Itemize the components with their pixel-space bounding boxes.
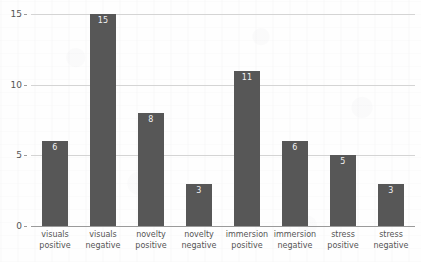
y-tick-label: 15 bbox=[11, 10, 22, 19]
x-tick-label-line: negative bbox=[271, 240, 319, 251]
bar-value-label: 6 bbox=[282, 144, 308, 152]
y-tick-mark bbox=[24, 14, 27, 15]
x-tick-label: immersionnegative bbox=[271, 229, 319, 251]
bar-value-label: 8 bbox=[138, 116, 164, 124]
x-tick-label-line: positive bbox=[127, 240, 175, 251]
x-tick-label-line: positive bbox=[319, 240, 367, 251]
bar: 8 bbox=[138, 113, 164, 226]
y-tick-label: 5 bbox=[16, 151, 22, 160]
x-tick-label-line: visuals bbox=[31, 229, 79, 240]
plot-area: 6158311653 bbox=[31, 14, 415, 226]
bar-value-label: 15 bbox=[90, 17, 116, 25]
bar-value-label: 3 bbox=[378, 187, 404, 195]
bar-value-label: 11 bbox=[234, 74, 260, 82]
x-tick-label-line: novelty bbox=[127, 229, 175, 240]
bar-value-label: 3 bbox=[186, 187, 212, 195]
x-tick-label-line: stress bbox=[367, 229, 415, 240]
bar-value-label: 5 bbox=[330, 158, 356, 166]
x-tick-label: visualsnegative bbox=[79, 229, 127, 251]
y-tick-label: 10 bbox=[11, 80, 22, 89]
axis-baseline bbox=[31, 226, 415, 227]
bar: 11 bbox=[234, 71, 260, 226]
x-tick-label-line: positive bbox=[31, 240, 79, 251]
bar: 3 bbox=[186, 184, 212, 226]
y-tick-label: 0 bbox=[16, 222, 22, 231]
x-tick-label-line: negative bbox=[367, 240, 415, 251]
x-tick-label: noveltynegative bbox=[175, 229, 223, 251]
bar: 15 bbox=[90, 14, 116, 226]
y-axis: 051015 bbox=[0, 14, 27, 226]
bar: 6 bbox=[282, 141, 308, 226]
x-tick-label: immersionpositive bbox=[223, 229, 271, 251]
x-tick-label-line: negative bbox=[79, 240, 127, 251]
x-tick-label-line: immersion bbox=[223, 229, 271, 240]
y-tick-mark bbox=[24, 85, 27, 86]
bar: 6 bbox=[42, 141, 68, 226]
x-tick-label-line: stress bbox=[319, 229, 367, 240]
bar-value-label: 6 bbox=[42, 144, 68, 152]
x-tick-label: stressnegative bbox=[367, 229, 415, 251]
bars-group: 6158311653 bbox=[31, 14, 415, 226]
x-tick-label: stresspositive bbox=[319, 229, 367, 251]
x-tick-label-line: visuals bbox=[79, 229, 127, 240]
x-axis: visualspositivevisualsnegativenoveltypos… bbox=[31, 229, 415, 259]
bar: 5 bbox=[330, 155, 356, 226]
x-tick-label: noveltypositive bbox=[127, 229, 175, 251]
bar: 3 bbox=[378, 184, 404, 226]
x-tick-label-line: negative bbox=[175, 240, 223, 251]
x-tick-label-line: immersion bbox=[271, 229, 319, 240]
y-tick-mark bbox=[24, 226, 27, 227]
x-tick-label-line: novelty bbox=[175, 229, 223, 240]
y-tick-mark bbox=[24, 155, 27, 156]
bar-chart: 051015 6158311653 visualspositivevisuals… bbox=[0, 0, 421, 262]
x-tick-label-line: positive bbox=[223, 240, 271, 251]
x-tick-label: visualspositive bbox=[31, 229, 79, 251]
